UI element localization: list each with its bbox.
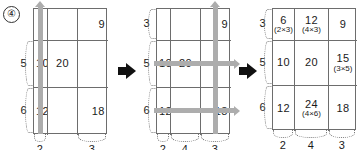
column-label-2: 4 (178, 143, 192, 150)
cell-r3-c2: 24(4×6) (295, 86, 329, 131)
column-label-1: 2 (33, 143, 47, 150)
panel-2-grid: 910201218 (156, 8, 230, 134)
column-brace-3 (78, 134, 106, 142)
cell-value: 9 (340, 19, 347, 31)
cell-r1-c2: 12(4×3) (295, 9, 329, 41)
column-label-1: 2 (156, 143, 170, 150)
cell-value: 20 (305, 57, 318, 69)
column-brace-1 (273, 130, 293, 138)
cell-r2-c1: 10 (273, 41, 295, 86)
cell-r2-c3 (201, 41, 231, 88)
cell-value: 20 (179, 58, 192, 70)
row-label-1: 3 (136, 17, 150, 29)
cell-factor-expression: (3×5) (334, 65, 353, 73)
column-brace-2 (295, 130, 327, 138)
cell-value: 12 (277, 103, 290, 115)
cell-r3-c3: 18 (201, 88, 231, 135)
column-brace-1 (34, 134, 46, 142)
cell-r3-c1: 12 (273, 86, 295, 131)
column-brace-3 (329, 130, 355, 138)
cell-value: 20 (56, 58, 69, 70)
cell-r1-c1 (34, 9, 48, 41)
cell-r3-c3: 18 (329, 86, 357, 131)
panel-1-grid: 910201218 (33, 8, 107, 134)
row-label-3: 6 (252, 101, 266, 113)
column-brace-3 (201, 134, 229, 142)
cell-value: 18 (215, 106, 228, 118)
cell-value: 10 (277, 57, 290, 69)
cell-r2-c2: 20 (48, 41, 78, 88)
cell-r3-c3: 18 (78, 88, 108, 135)
cell-r1-c2 (48, 9, 78, 41)
cell-r2-c2: 20 (171, 41, 201, 88)
cell-r2-c2: 20 (295, 41, 329, 86)
panel-3-grid: 6(2×3)12(4×3)9102015(3×5)1224(4×6)18 (272, 8, 356, 130)
row-label-3: 6 (136, 104, 150, 116)
cell-r2-c1: 10 (34, 41, 48, 88)
cell-value: 9 (221, 19, 228, 31)
cell-r1-c2 (171, 9, 201, 41)
cell-r1-c3: 9 (201, 9, 231, 41)
cell-value: 18 (336, 103, 349, 115)
problem-number-marker: ④ (3, 6, 20, 23)
row-label-2: 5 (136, 57, 150, 69)
cell-factor-expression: (4×6) (302, 110, 321, 118)
column-brace-2 (171, 134, 199, 142)
cell-value: 18 (92, 106, 105, 118)
cell-r3-c1: 12 (157, 88, 171, 135)
column-label-3: 3 (208, 143, 222, 150)
cell-r2-c1: 10 (157, 41, 171, 88)
cell-factor-expression: (4×3) (302, 26, 321, 34)
cell-factor-expression: (2×3) (274, 26, 293, 34)
cell-value: 15 (336, 53, 349, 65)
column-label-3: 3 (335, 139, 349, 150)
cell-r3-c1: 12 (34, 88, 48, 135)
column-label-2: 4 (304, 139, 318, 150)
row-label-1: 3 (252, 17, 266, 29)
row-label-2: 5 (252, 56, 266, 68)
column-label-1: 2 (276, 139, 290, 150)
cell-r3-c2 (48, 88, 78, 135)
step-arrow-head (126, 63, 136, 79)
cell-value: 12 (36, 106, 48, 118)
column-label-3: 3 (85, 143, 99, 150)
row-label-2: 5 (13, 57, 27, 69)
cell-value: 12 (159, 106, 171, 118)
cell-r1-c3: 9 (329, 9, 357, 41)
cell-r2-c3 (78, 41, 108, 88)
cell-r2-c3: 15(3×5) (329, 41, 357, 86)
cell-value: 9 (98, 19, 105, 31)
cell-value: 10 (36, 58, 48, 70)
cell-value: 10 (159, 58, 171, 70)
step-arrow-1 (118, 63, 136, 79)
cell-r1-c1 (157, 9, 171, 41)
cell-r1-c3: 9 (78, 9, 108, 41)
cell-r3-c2 (171, 88, 201, 135)
cell-r1-c1: 6(2×3) (273, 9, 295, 41)
column-brace-1 (157, 134, 169, 142)
row-label-3: 6 (13, 104, 27, 116)
